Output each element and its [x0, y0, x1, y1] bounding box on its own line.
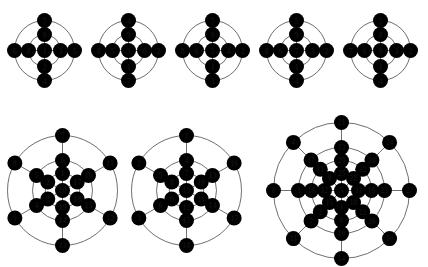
- graph-node[interactable]: 4: [373, 73, 388, 88]
- graph-node[interactable]: 1: [121, 59, 136, 74]
- graph-node[interactable]: 6: [334, 213, 349, 228]
- graph-node[interactable]: 8: [175, 43, 190, 58]
- graph-node[interactable]: 14: [334, 251, 349, 266]
- graph-node[interactable]: 10: [334, 226, 349, 241]
- graph-node[interactable]: 30: [382, 231, 397, 246]
- graph-node[interactable]: 29: [334, 153, 349, 168]
- graph-node[interactable]: 23: [377, 183, 392, 198]
- graph-node[interactable]: 5: [334, 183, 349, 198]
- graph-node[interactable]: 8: [91, 43, 106, 58]
- graph-node[interactable]: 4: [221, 43, 236, 58]
- graph-node[interactable]: 13: [204, 168, 219, 183]
- graph-node[interactable]: 7: [37, 13, 52, 28]
- graph-node[interactable]: 7: [205, 13, 220, 28]
- node-label: 1: [126, 61, 130, 71]
- graph-node[interactable]: 8: [373, 27, 388, 42]
- top-graph-4-svg: 795321468: [256, 10, 337, 91]
- graph-node[interactable]: 5: [67, 43, 82, 58]
- node-label: 6: [362, 45, 366, 55]
- graph-node[interactable]: 17: [303, 152, 318, 167]
- graph-node[interactable]: 5: [205, 43, 220, 58]
- graph-node[interactable]: 12: [102, 210, 117, 225]
- graph-node[interactable]: 4: [29, 198, 44, 213]
- graph-node[interactable]: 1: [289, 59, 304, 74]
- graph-node[interactable]: 3: [131, 210, 146, 225]
- graph-node[interactable]: 20: [364, 152, 379, 167]
- graph-node[interactable]: 12: [179, 200, 194, 215]
- graph-node[interactable]: 6: [7, 43, 22, 58]
- graph-node[interactable]: 4: [121, 13, 136, 28]
- graph-node[interactable]: 7: [179, 166, 194, 181]
- graph-node[interactable]: 16: [80, 168, 95, 183]
- graph-node[interactable]: 16: [304, 183, 319, 198]
- graph-node[interactable]: 6: [189, 43, 204, 58]
- graph-node[interactable]: 18: [179, 238, 194, 253]
- graph-node[interactable]: 2: [235, 43, 250, 58]
- graph-node[interactable]: 5: [29, 168, 44, 183]
- graph-node[interactable]: 19: [364, 183, 379, 198]
- graph-node[interactable]: 2: [151, 43, 166, 58]
- graph-node[interactable]: 15: [80, 198, 95, 213]
- graph-node[interactable]: 14: [55, 213, 70, 228]
- graph-node[interactable]: 24: [382, 134, 397, 149]
- graph-node[interactable]: 4: [179, 153, 194, 168]
- graph-node[interactable]: 15: [179, 213, 194, 228]
- graph-node[interactable]: 3: [389, 43, 404, 58]
- graph-node[interactable]: 2: [319, 43, 334, 58]
- graph-node[interactable]: 10: [55, 183, 70, 198]
- graph-node[interactable]: 7: [303, 213, 318, 228]
- graph-node[interactable]: 27: [402, 183, 417, 198]
- graph-node[interactable]: 7: [55, 128, 70, 143]
- graph-node[interactable]: 1: [205, 59, 220, 74]
- graph-node[interactable]: 5: [373, 13, 388, 28]
- graph-node[interactable]: 19: [179, 183, 194, 198]
- graph-node[interactable]: 3: [291, 183, 306, 198]
- graph-node[interactable]: 4: [285, 134, 300, 149]
- graph-node[interactable]: 5: [105, 43, 120, 58]
- graph-node[interactable]: 2: [403, 43, 418, 58]
- graph-node[interactable]: 6: [153, 198, 168, 213]
- graph-node[interactable]: 9: [121, 27, 136, 42]
- graph-node[interactable]: 17: [226, 210, 241, 225]
- graph-node[interactable]: 9: [373, 43, 388, 58]
- graph-node[interactable]: 1: [373, 59, 388, 74]
- graph-node[interactable]: 8: [259, 43, 274, 58]
- graph-node[interactable]: 9: [7, 210, 22, 225]
- graph-node[interactable]: 9: [205, 27, 220, 42]
- graph-node[interactable]: 9: [289, 27, 304, 42]
- graph-node[interactable]: 8: [21, 43, 36, 58]
- ring-edge: [341, 238, 389, 258]
- graph-node[interactable]: 33: [334, 140, 349, 155]
- graph-node[interactable]: 11: [102, 155, 117, 170]
- graph-node[interactable]: 8: [266, 183, 281, 198]
- graph-node[interactable]: 3: [305, 43, 320, 58]
- graph-node[interactable]: 2: [131, 155, 146, 170]
- graph-node[interactable]: 1: [37, 43, 52, 58]
- graph-node[interactable]: 8: [7, 155, 22, 170]
- graph-node[interactable]: 7: [289, 43, 304, 58]
- graph-node[interactable]: 2: [37, 59, 52, 74]
- graph-node[interactable]: 7: [121, 73, 136, 88]
- graph-node[interactable]: 1: [55, 166, 70, 181]
- graph-node[interactable]: 6: [357, 43, 372, 58]
- graph-node[interactable]: 5: [153, 168, 168, 183]
- graph-node[interactable]: 16: [226, 155, 241, 170]
- graph-node[interactable]: 6: [137, 43, 152, 58]
- graph-node[interactable]: 3: [53, 43, 68, 58]
- graph-node[interactable]: 6: [273, 43, 288, 58]
- graph-node[interactable]: 6: [55, 153, 70, 168]
- graph-node[interactable]: 3: [205, 73, 220, 88]
- graph-node[interactable]: 19: [55, 200, 70, 215]
- graph-node[interactable]: 14: [204, 198, 219, 213]
- graph-node[interactable]: 5: [289, 13, 304, 28]
- graph-node[interactable]: 11: [285, 231, 300, 246]
- graph-node[interactable]: 1: [179, 128, 194, 143]
- graph-node[interactable]: 21: [334, 115, 349, 130]
- graph-node[interactable]: 7: [343, 43, 358, 58]
- graph-node[interactable]: 3: [121, 43, 136, 58]
- graph-node[interactable]: 9: [37, 27, 52, 42]
- graph-node[interactable]: 4: [289, 73, 304, 88]
- graph-node[interactable]: 13: [55, 238, 70, 253]
- graph-node[interactable]: 4: [37, 73, 52, 88]
- graph-node[interactable]: 26: [364, 213, 379, 228]
